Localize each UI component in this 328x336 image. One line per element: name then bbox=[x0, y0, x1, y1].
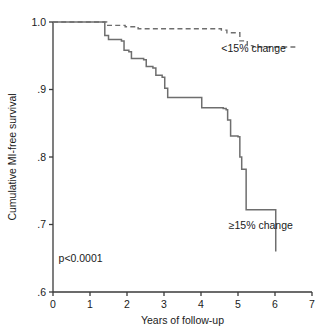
y-tick-label: .8 bbox=[37, 151, 46, 163]
x-tick-label: 3 bbox=[161, 298, 167, 310]
y-tick-label: .7 bbox=[37, 218, 46, 230]
y-axis-title: Cumulative MI-free survival bbox=[6, 93, 18, 220]
x-tick-label: 2 bbox=[124, 298, 130, 310]
x-tick-label: 1 bbox=[87, 298, 93, 310]
series-label-solid: ≥15% change bbox=[229, 219, 293, 231]
y-tick-label: .9 bbox=[37, 83, 46, 95]
x-tick-label: 5 bbox=[235, 298, 241, 310]
p-value: p<0.0001 bbox=[59, 252, 103, 264]
x-tick-label: 7 bbox=[309, 298, 315, 310]
x-tick-label: 6 bbox=[272, 298, 278, 310]
kaplan-meier-chart: 1.0.9.8.7.601234567Years of follow-upCum… bbox=[0, 0, 328, 336]
x-axis-title: Years of follow-up bbox=[141, 314, 224, 326]
y-tick-label: .6 bbox=[37, 286, 46, 298]
x-tick-label: 4 bbox=[198, 298, 204, 310]
series-curve-solid bbox=[53, 22, 276, 252]
series-label-dashed: <15% change bbox=[221, 42, 286, 54]
x-tick-label: 0 bbox=[50, 298, 56, 310]
y-tick-label: 1.0 bbox=[31, 16, 46, 28]
